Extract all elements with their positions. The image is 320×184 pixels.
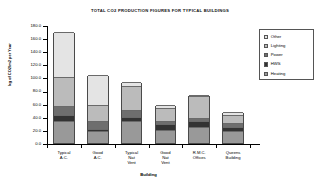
x-axis-tick xyxy=(149,144,150,148)
y-axis-tick-label: 100.0 xyxy=(0,76,41,80)
y-axis-tick-label: 40.0 xyxy=(0,116,41,120)
bar-segment-hws[interactable] xyxy=(156,124,176,130)
bar-segment-heating[interactable] xyxy=(156,130,176,143)
legend-item-heating[interactable]: Heating xyxy=(264,72,285,76)
bar-segment-other[interactable] xyxy=(88,75,108,105)
stacked-bar[interactable] xyxy=(155,106,177,144)
bar-segment-lighting[interactable] xyxy=(156,108,176,121)
bar-segment-lighting[interactable] xyxy=(189,96,209,118)
y-axis-tick-label-text: 40.0 xyxy=(0,116,41,120)
x-axis-category-label: Queens Building xyxy=(216,150,250,160)
chart-title: TOTAL CO2 PRODUCTION FIGURES FOR TYPICAL… xyxy=(0,8,320,13)
bar-segment-heating[interactable] xyxy=(88,131,108,143)
plot-area xyxy=(47,26,250,144)
y-axis-tick-label-text: 180.0 xyxy=(0,24,41,28)
bar-segment-lighting[interactable] xyxy=(122,86,142,110)
bar-segment-power[interactable] xyxy=(88,121,108,128)
bar-segment-other[interactable] xyxy=(54,32,74,78)
bar-segment-power[interactable] xyxy=(223,123,243,127)
y-axis-tick-label: 60.0 xyxy=(0,103,41,107)
bar-group[interactable] xyxy=(155,26,177,144)
x-axis-tick xyxy=(115,144,116,148)
x-axis-category-label: R.M.C. Offices xyxy=(182,150,216,160)
legend-swatch-icon xyxy=(264,62,268,66)
bar-segment-other[interactable] xyxy=(189,95,209,96)
legend-swatch-icon xyxy=(264,35,268,39)
legend-item-lighting[interactable]: Lighting xyxy=(264,44,285,48)
y-axis-tick-label-text: 20.0 xyxy=(0,129,41,133)
bar-segment-lighting[interactable] xyxy=(54,77,74,105)
legend-item-hws[interactable]: HWS xyxy=(264,62,281,66)
x-axis-tick xyxy=(250,144,251,148)
y-axis-tick-label-text: 120.0 xyxy=(0,63,41,67)
y-axis-tick-label-text: 160.0 xyxy=(0,37,41,41)
bar-segment-other[interactable] xyxy=(122,82,142,86)
x-axis-tick xyxy=(81,144,82,148)
y-axis-tick-label-text: 0.0 xyxy=(0,142,41,146)
bar-group[interactable] xyxy=(188,26,210,144)
stacked-bar[interactable] xyxy=(53,33,75,144)
bar-segment-heating[interactable] xyxy=(223,131,243,143)
stacked-bar[interactable] xyxy=(222,113,244,144)
y-axis-tick-label-text: 80.0 xyxy=(0,89,41,93)
legend: OtherLightingPowerHWSHeating xyxy=(259,29,314,80)
y-axis-tick-label: 180.0 xyxy=(0,24,41,28)
x-axis-title: Building xyxy=(47,172,250,177)
bar-segment-hws[interactable] xyxy=(122,117,142,122)
stacked-bar[interactable] xyxy=(121,83,143,144)
legend-swatch-icon xyxy=(264,53,268,57)
y-axis-tick-label: 160.0 xyxy=(0,37,41,41)
y-axis-tick-label-text: 100.0 xyxy=(0,76,41,80)
legend-swatch-icon xyxy=(264,72,268,76)
legend-label: Lighting xyxy=(271,44,286,48)
x-axis-tick xyxy=(47,144,48,148)
bar-segment-lighting[interactable] xyxy=(88,105,108,121)
bar-segment-heating[interactable] xyxy=(189,127,209,143)
legend-label: HWS xyxy=(271,62,281,66)
y-axis-tick-label: 140.0 xyxy=(0,50,41,54)
x-axis-tick xyxy=(216,144,217,148)
y-axis-tick-label: 120.0 xyxy=(0,63,41,67)
bar-segment-lighting[interactable] xyxy=(223,115,243,124)
y-axis-tick-label-text: 140.0 xyxy=(0,50,41,54)
y-axis-tick-label: 20.0 xyxy=(0,129,41,133)
bar-group[interactable] xyxy=(53,26,75,144)
bar-segment-hws[interactable] xyxy=(54,115,74,122)
chart-container: TOTAL CO2 PRODUCTION FIGURES FOR TYPICAL… xyxy=(0,0,320,184)
x-axis-line xyxy=(47,144,260,145)
x-axis-category-label: Typical Nat Vent xyxy=(115,150,149,166)
bar-segment-power[interactable] xyxy=(122,110,142,117)
y-axis-tick-label: 0.0 xyxy=(0,142,41,146)
bar-segment-power[interactable] xyxy=(54,106,74,115)
bar-segment-other[interactable] xyxy=(223,112,243,115)
stacked-bar[interactable] xyxy=(188,96,210,144)
legend-label: Heating xyxy=(271,72,285,76)
x-axis-tick xyxy=(182,144,183,148)
legend-item-other[interactable]: Other xyxy=(264,35,281,39)
bar-segment-hws[interactable] xyxy=(88,129,108,132)
x-axis-category-label: Good Nat Vent xyxy=(149,150,183,166)
bar-segment-hws[interactable] xyxy=(189,121,209,127)
legend-label: Other xyxy=(271,35,281,39)
stacked-bar[interactable] xyxy=(87,76,109,144)
bar-group[interactable] xyxy=(87,26,109,144)
bar-segment-hws[interactable] xyxy=(223,127,243,130)
y-axis-tick-label-text: 60.0 xyxy=(0,103,41,107)
bar-group[interactable] xyxy=(222,26,244,144)
x-axis-category-label: Typical A.C. xyxy=(47,150,81,160)
bar-segment-heating[interactable] xyxy=(122,121,142,143)
bar-segment-other[interactable] xyxy=(156,105,176,108)
legend-item-power[interactable]: Power xyxy=(264,53,283,57)
bar-segment-heating[interactable] xyxy=(54,121,74,143)
x-axis-category-label: Good A.C. xyxy=(81,150,115,160)
legend-label: Power xyxy=(271,53,283,57)
y-axis-tick-label: 80.0 xyxy=(0,89,41,93)
bar-segment-power[interactable] xyxy=(189,118,209,121)
legend-swatch-icon xyxy=(264,44,268,48)
bar-segment-power[interactable] xyxy=(156,121,176,124)
bar-group[interactable] xyxy=(121,26,143,144)
